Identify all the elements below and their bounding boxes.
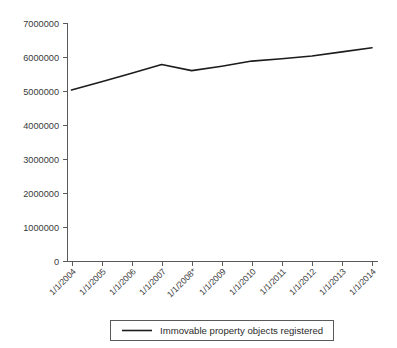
y-axis-tick-label: 0 [54, 257, 59, 267]
y-axis-tick-label: 1000000 [23, 223, 59, 233]
y-axis-tick-label: 2000000 [23, 189, 59, 199]
y-axis-tick-label: 3000000 [23, 155, 59, 165]
y-axis-tick-label: 6000000 [23, 53, 59, 63]
y-axis-tick-label: 5000000 [23, 87, 59, 97]
legend-label: Immovable property objects registered [160, 325, 323, 336]
chart-canvas: 0100000020000003000000400000050000006000… [0, 0, 397, 348]
y-axis-tick-label: 7000000 [23, 19, 59, 29]
line-chart: 0100000020000003000000400000050000006000… [0, 0, 397, 348]
y-axis-tick-label: 4000000 [23, 121, 59, 131]
